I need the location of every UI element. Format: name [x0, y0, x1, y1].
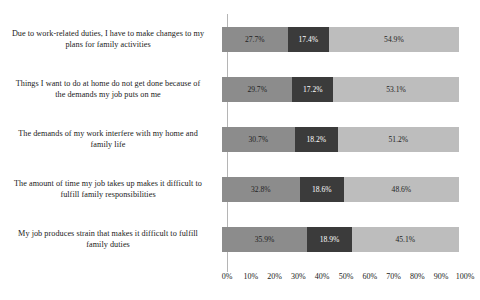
category-label-line: family duties: [0, 239, 216, 251]
category-label: My job produces strain that makes it dif…: [0, 228, 222, 251]
category-label-line: plans for family activities: [0, 39, 216, 51]
x-axis-tick-labels: 0%10%20%30%40%50%60%70%80%90%100%: [222, 272, 470, 286]
bar-plot-area: 30.7%18.2%51.2%: [222, 114, 459, 164]
bar-segment-value-label: 17.4%: [298, 35, 318, 44]
chart-row: Things I want to do at home do not get d…: [0, 64, 480, 114]
bar-segment[interactable]: 17.2%: [292, 77, 333, 102]
bar-segment[interactable]: 17.4%: [288, 27, 329, 52]
category-label-line: My job produces strain that makes it dif…: [0, 228, 216, 240]
category-label-line: the demands my job puts on me: [0, 89, 216, 101]
bar-segment-value-label: 45.1%: [395, 235, 415, 244]
bar-plot-area: 35.9%18.9%45.1%: [222, 214, 459, 264]
category-label-line: Things I want to do at home do not get d…: [0, 78, 216, 90]
category-label-line: family life: [0, 139, 216, 151]
category-label-line: fulfill family responsibilities: [0, 189, 216, 201]
stacked-bar[interactable]: 29.7%17.2%53.1%: [222, 77, 459, 102]
x-axis-tick-label: 50%: [339, 272, 354, 281]
bar-segment-value-label: 29.7%: [247, 85, 267, 94]
category-label-line: The demands of my work interfere with my…: [0, 128, 216, 140]
x-axis-tick-label: 0%: [222, 272, 233, 281]
bar-segment[interactable]: 54.9%: [329, 27, 459, 52]
category-label-line: The amount of time my job takes up makes…: [0, 178, 216, 190]
category-label: Due to work-related duties, I have to ma…: [0, 28, 222, 51]
bar-segment[interactable]: 18.6%: [300, 177, 344, 202]
bar-segment-value-label: 35.9%: [255, 235, 275, 244]
bar-segment-value-label: 27.7%: [245, 35, 265, 44]
chart-row: Due to work-related duties, I have to ma…: [0, 14, 480, 64]
x-axis-tick-label: 90%: [434, 272, 449, 281]
x-axis-tick-label: 60%: [362, 272, 377, 281]
bar-segment-value-label: 51.2%: [389, 135, 409, 144]
category-label-line: Due to work-related duties, I have to ma…: [0, 28, 216, 40]
bar-segment-value-label: 53.1%: [386, 85, 406, 94]
bar-segment[interactable]: 45.1%: [352, 227, 459, 252]
bar-segment-value-label: 48.6%: [392, 185, 412, 194]
bar-plot-area: 32.8%18.6%48.6%: [222, 164, 459, 214]
chart-row: The demands of my work interfere with my…: [0, 114, 480, 164]
chart-row: The amount of time my job takes up makes…: [0, 164, 480, 214]
bar-segment-value-label: 30.7%: [249, 135, 269, 144]
x-axis-tick-label: 10%: [243, 272, 258, 281]
stacked-bar[interactable]: 27.7%17.4%54.9%: [222, 27, 459, 52]
x-axis-tick-label: 80%: [410, 272, 425, 281]
stacked-bar[interactable]: 32.8%18.6%48.6%: [222, 177, 459, 202]
category-label: The amount of time my job takes up makes…: [0, 178, 222, 201]
stacked-bar-chart: Due to work-related duties, I have to ma…: [0, 0, 480, 300]
bar-segment[interactable]: 30.7%: [222, 127, 295, 152]
bar-segment[interactable]: 32.8%: [222, 177, 300, 202]
chart-row: My job produces strain that makes it dif…: [0, 214, 480, 264]
bar-segment[interactable]: 53.1%: [333, 77, 459, 102]
stacked-bar[interactable]: 30.7%18.2%51.2%: [222, 127, 459, 152]
bar-segment[interactable]: 48.6%: [344, 177, 459, 202]
bar-segment[interactable]: 35.9%: [222, 227, 307, 252]
bar-plot-area: 27.7%17.4%54.9%: [222, 14, 459, 64]
x-axis-tick-label: 100%: [456, 272, 475, 281]
bar-segment[interactable]: 18.2%: [295, 127, 338, 152]
bar-segment[interactable]: 51.2%: [338, 127, 459, 152]
bar-segment-value-label: 18.2%: [306, 135, 326, 144]
category-label: Things I want to do at home do not get d…: [0, 78, 222, 101]
bar-segment[interactable]: 27.7%: [222, 27, 288, 52]
x-axis-tick-label: 20%: [267, 272, 282, 281]
x-axis-tick-label: 70%: [386, 272, 401, 281]
x-axis-tick-label: 30%: [291, 272, 306, 281]
bar-segment[interactable]: 18.9%: [307, 227, 352, 252]
stacked-bar[interactable]: 35.9%18.9%45.1%: [222, 227, 459, 252]
bar-segment-value-label: 17.2%: [303, 85, 323, 94]
bar-segment[interactable]: 29.7%: [222, 77, 292, 102]
bar-segment-value-label: 18.6%: [312, 185, 332, 194]
bar-segment-value-label: 32.8%: [251, 185, 271, 194]
category-label: The demands of my work interfere with my…: [0, 128, 222, 151]
bar-segment-value-label: 54.9%: [384, 35, 404, 44]
bar-segment-value-label: 18.9%: [320, 235, 340, 244]
bar-plot-area: 29.7%17.2%53.1%: [222, 64, 459, 114]
x-axis-tick-label: 40%: [315, 272, 330, 281]
